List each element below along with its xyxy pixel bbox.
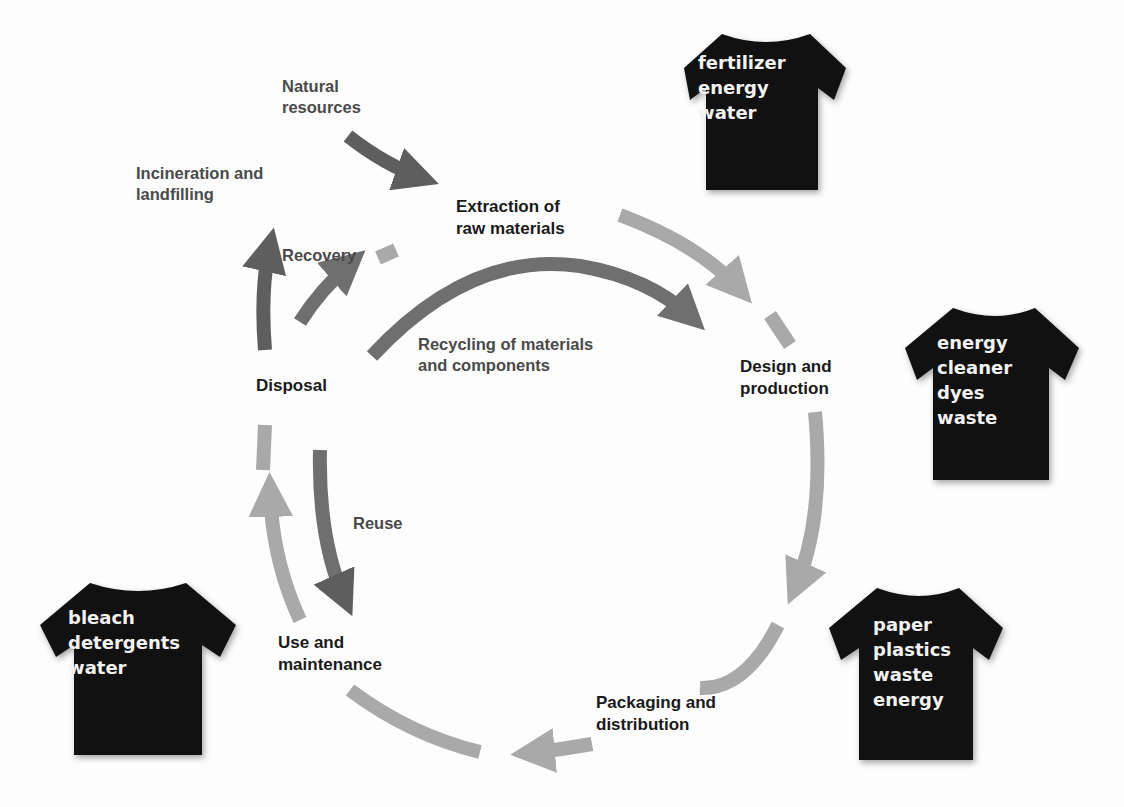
shirt-item: detergents xyxy=(68,630,180,655)
flow-recycling-line1: Recycling of materials xyxy=(418,334,593,355)
arrow-reuse xyxy=(320,450,345,600)
stage-design-line1: Design and xyxy=(740,356,832,378)
tshirt-extraction-items: fertilizer energy water xyxy=(698,50,786,125)
shirt-item: paper xyxy=(873,612,951,637)
stage-extraction-line1: Extraction of xyxy=(456,196,565,218)
shirt-item: fertilizer xyxy=(698,50,786,75)
stage-extraction: Extraction of raw materials xyxy=(456,196,565,240)
cycle-dash-disposal xyxy=(263,425,265,470)
shirt-item: waste xyxy=(873,662,951,687)
stage-disposal-line1: Disposal xyxy=(256,375,327,397)
stage-packaging-line2: distribution xyxy=(596,714,716,736)
flow-natural-resources-line1: Natural xyxy=(282,76,361,97)
stage-disposal: Disposal xyxy=(256,375,327,397)
shirt-item: energy xyxy=(873,687,951,712)
flow-incineration-line2: landfilling xyxy=(136,184,263,205)
stage-design: Design and production xyxy=(740,356,832,400)
shirt-item: cleaner xyxy=(937,355,1012,380)
tshirt-design-items: energy cleaner dyes waste xyxy=(937,330,1012,430)
flow-incineration: Incineration and landfilling xyxy=(136,163,263,206)
tshirt-use: bleach detergents water xyxy=(38,575,238,760)
shirt-item: bleach xyxy=(68,605,180,630)
arrow-natural-resources xyxy=(348,136,422,178)
shirt-item: energy xyxy=(937,330,1012,355)
flow-natural-resources: Natural resources xyxy=(282,76,361,119)
stage-use: Use and maintenance xyxy=(278,632,382,676)
stage-use-line1: Use and xyxy=(278,632,382,654)
secondary-arrows xyxy=(300,262,692,600)
tshirt-packaging: paper plastics waste energy xyxy=(827,580,1007,765)
shirt-item: dyes xyxy=(937,380,1012,405)
cycle-dash-packaging xyxy=(700,625,778,688)
stage-extraction-line2: raw materials xyxy=(456,218,565,240)
tshirt-design: energy cleaner dyes waste xyxy=(903,300,1083,485)
stage-packaging-line1: Packaging and xyxy=(596,692,716,714)
flow-recycling-line2: and components xyxy=(418,355,593,376)
life-cycle-diagram: Extraction of raw materials Design and p… xyxy=(0,0,1124,807)
shirt-item: water xyxy=(698,100,786,125)
shirt-item: water xyxy=(68,655,180,680)
flow-recovery-line1: Recovery xyxy=(282,245,356,266)
flow-recovery: Recovery xyxy=(282,245,356,266)
flow-recycling: Recycling of materials and components xyxy=(418,334,593,377)
stage-use-line2: maintenance xyxy=(278,654,382,676)
arrow-use-to-disposal xyxy=(270,490,300,620)
flow-incineration-line1: Incineration and xyxy=(136,163,263,184)
flow-reuse-line1: Reuse xyxy=(353,513,403,534)
shirt-item: plastics xyxy=(873,637,951,662)
stage-design-line2: production xyxy=(740,378,832,400)
cycle-curve-use xyxy=(350,690,480,752)
arrow-incineration xyxy=(263,245,270,350)
cycle-dash-recovery-extraction xyxy=(378,250,396,258)
stage-packaging: Packaging and distribution xyxy=(596,692,716,736)
arrow-design-to-packaging xyxy=(795,412,818,588)
shirt-item: waste xyxy=(937,405,1012,430)
arrow-packaging-to-use xyxy=(528,744,592,753)
cycle-dash-design xyxy=(770,315,790,345)
tshirt-use-items: bleach detergents water xyxy=(68,605,180,680)
tshirt-packaging-items: paper plastics waste energy xyxy=(873,612,951,712)
shirt-item: energy xyxy=(698,75,786,100)
arrow-recovery xyxy=(300,262,352,322)
flow-natural-resources-line2: resources xyxy=(282,97,361,118)
dark-arrows xyxy=(263,136,422,350)
flow-reuse: Reuse xyxy=(353,513,403,534)
tshirt-extraction: fertilizer energy water xyxy=(682,28,850,196)
